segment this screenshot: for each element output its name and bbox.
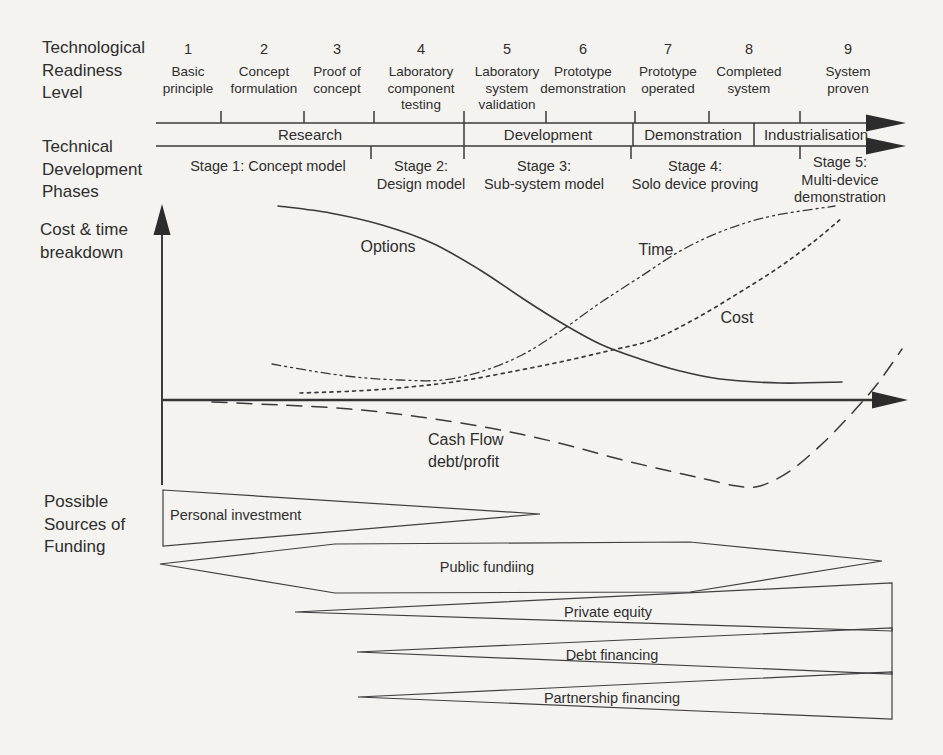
trl-label-3: Proof of concept bbox=[297, 64, 377, 97]
options-curve bbox=[278, 206, 842, 383]
trl-number-4: 4 bbox=[417, 41, 425, 57]
phase-development: Development bbox=[504, 126, 592, 143]
personal-investment-label: Personal investment bbox=[170, 507, 301, 523]
stage-5-label: Stage 5: Multi-device demonstration bbox=[788, 154, 893, 207]
debt-financing-label: Debt financing bbox=[566, 647, 659, 663]
trl-label-7: Prototype operated bbox=[628, 64, 708, 97]
y-axis-arrowhead-icon bbox=[154, 204, 171, 235]
trl-number-1: 1 bbox=[184, 41, 192, 57]
private-equity-label: Private equity bbox=[564, 604, 652, 620]
stage-1-label: Stage 1: Concept model bbox=[158, 158, 378, 176]
trl-label-1: Basic principle bbox=[153, 64, 223, 97]
cost-curve-label: Cost bbox=[721, 309, 754, 327]
funding-section-header: Possible Sources of Funding bbox=[44, 491, 144, 559]
public-funding-label: Public fundiing bbox=[440, 559, 534, 575]
cashflow-curve-label: Cash Flow debt/profit bbox=[428, 429, 523, 472]
phase-research: Research bbox=[278, 126, 342, 143]
cost-section-header: Cost & time breakdown bbox=[40, 219, 140, 264]
funding-shapes bbox=[160, 490, 892, 719]
trl-section-header: Technological Readiness Level bbox=[42, 37, 150, 105]
stage-2-label: Stage 2: Design model bbox=[361, 158, 481, 193]
trl-label-8: Completed system bbox=[704, 64, 794, 97]
trl-number-7: 7 bbox=[664, 41, 672, 57]
trl-label-6: Prototype demonstration bbox=[528, 64, 638, 97]
trl-label-4: Laboratory component testing bbox=[381, 64, 461, 114]
phase-industrialisation: Industrialisation bbox=[764, 126, 868, 143]
timeline-upper-arrowhead-icon bbox=[866, 115, 906, 132]
timeline-lower-arrowhead-icon bbox=[866, 138, 906, 155]
x-axis-arrowhead-icon bbox=[872, 392, 908, 409]
phase-demonstration: Demonstration bbox=[644, 126, 742, 143]
trl-number-9: 9 bbox=[844, 41, 852, 57]
trl-number-5: 5 bbox=[503, 41, 511, 57]
trl-label-9: System proven bbox=[818, 64, 878, 97]
time-curve-label: Time bbox=[639, 241, 674, 259]
trl-number-8: 8 bbox=[745, 41, 753, 57]
trl-number-2: 2 bbox=[260, 41, 268, 57]
trl-number-3: 3 bbox=[333, 41, 341, 57]
partnership-financing-label: Partnership financing bbox=[544, 690, 680, 706]
stage-3-label: Stage 3: Sub-system model bbox=[474, 158, 614, 193]
options-curve-label: Options bbox=[360, 238, 415, 256]
stage-4-label: Stage 4: Solo device proving bbox=[620, 158, 770, 193]
trl-number-6: 6 bbox=[579, 41, 587, 57]
scanned-diagram-page: Technological Readiness Level Technical … bbox=[0, 0, 943, 755]
phases-section-header: Technical Development Phases bbox=[42, 136, 152, 204]
time-curve bbox=[272, 206, 835, 381]
cashflow-curve bbox=[212, 349, 902, 487]
